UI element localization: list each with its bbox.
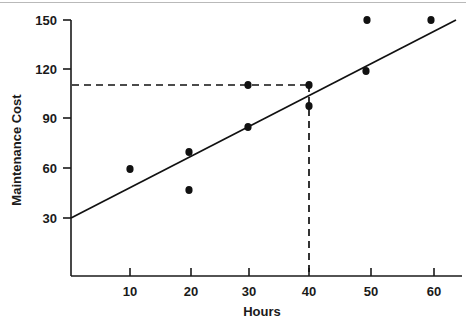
data-point <box>185 186 192 194</box>
y-tick-label-120: 120 <box>35 62 57 77</box>
x-tick-label-30: 30 <box>242 284 256 299</box>
data-point <box>126 165 133 173</box>
x-tick-label-40: 40 <box>302 284 316 299</box>
x-axis-title: Hours <box>243 304 281 319</box>
y-tick-label-90: 90 <box>43 111 57 126</box>
scatter-plot-figure: 150 120 90 60 30 10 20 30 40 50 60 <box>0 0 466 326</box>
data-point <box>305 102 312 110</box>
y-tick-label-150: 150 <box>35 13 57 28</box>
x-tick-label-50: 50 <box>364 284 378 299</box>
chart-page: 150 120 90 60 30 10 20 30 40 50 60 <box>0 0 466 326</box>
data-point <box>185 148 192 156</box>
x-tick-label-60: 60 <box>427 284 441 299</box>
data-point <box>427 16 434 24</box>
data-point <box>305 81 312 89</box>
y-tick-label-30: 30 <box>43 211 57 226</box>
x-tick-label-20: 20 <box>184 284 198 299</box>
data-point <box>363 16 370 24</box>
y-tick-label-60: 60 <box>43 161 57 176</box>
y-axis-title: Maintenance Cost <box>9 94 24 206</box>
x-tick-label-10: 10 <box>123 284 137 299</box>
data-point <box>244 123 251 131</box>
regression-trend-line <box>71 20 456 218</box>
data-point <box>362 67 369 75</box>
data-point <box>244 81 251 89</box>
